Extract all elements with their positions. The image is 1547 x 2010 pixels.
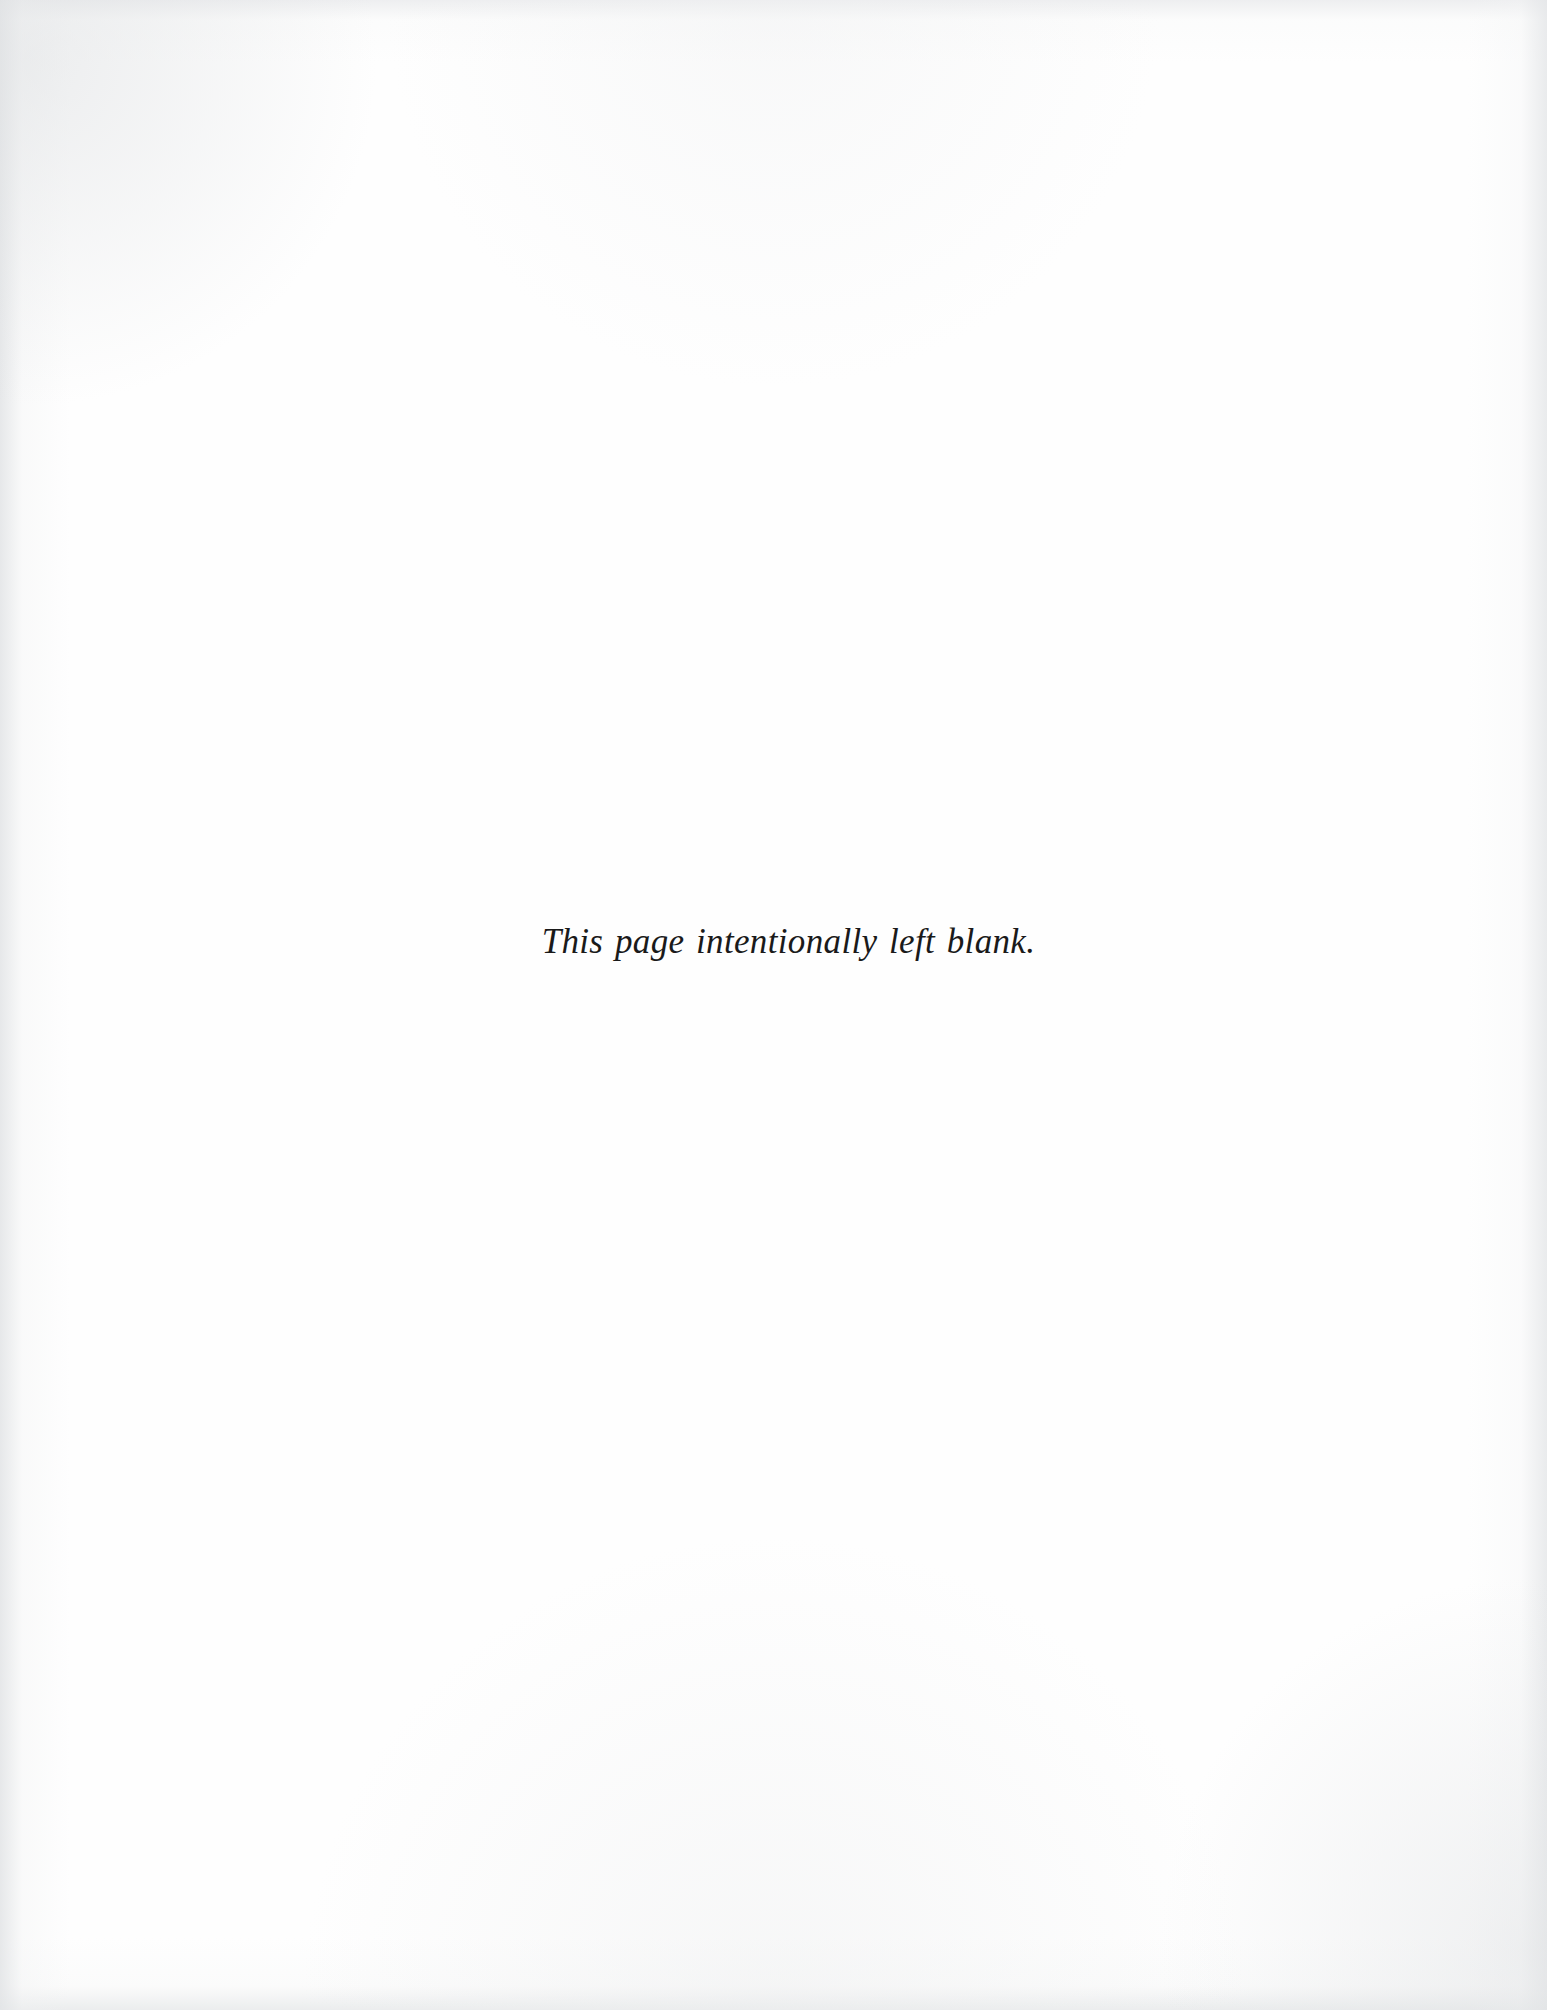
blank-page-notice-text: This page intentionally left blank.	[542, 922, 1036, 961]
scanned-page: This page intentionally left blank.	[0, 0, 1547, 2010]
scan-edge-shadow	[0, 0, 1547, 2010]
scan-corner-shading	[0, 0, 1547, 2010]
blank-page-notice: This page intentionally left blank.	[0, 922, 1547, 961]
